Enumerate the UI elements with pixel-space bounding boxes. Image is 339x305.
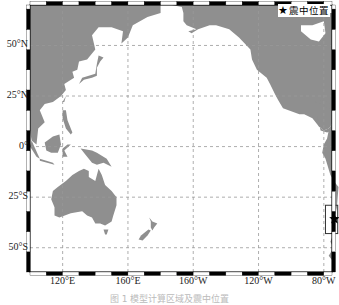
frame-tick-left bbox=[27, 70, 31, 90]
legend-label: 震中位置 bbox=[289, 4, 329, 17]
frame-tick-left bbox=[27, 50, 31, 70]
lon-tick-label: 120°E bbox=[50, 275, 75, 286]
frame-tick-right bbox=[332, 90, 336, 110]
frame-tick-right bbox=[332, 9, 336, 29]
star-icon: ★ bbox=[278, 4, 288, 17]
frame-tick-left bbox=[27, 5, 31, 9]
frame-tick-bottom bbox=[226, 272, 242, 276]
frame-tick-left bbox=[27, 211, 31, 231]
frame-tick-left bbox=[27, 151, 31, 171]
frame-tick-top bbox=[128, 2, 144, 6]
frame-tick-top bbox=[95, 2, 111, 6]
frame-tick-bottom bbox=[161, 272, 177, 276]
frame-tick-left bbox=[27, 171, 31, 191]
frame-tick-top bbox=[144, 2, 160, 6]
frame-tick-bottom bbox=[79, 272, 95, 276]
lon-tick-label: 160°W bbox=[179, 275, 207, 286]
frame-tick-top bbox=[210, 2, 226, 6]
frame-tick-right bbox=[332, 130, 336, 150]
frame-tick-right bbox=[332, 110, 336, 130]
frame-tick-left bbox=[27, 9, 31, 29]
legend: ★ 震中位置 bbox=[278, 4, 330, 17]
lat-tick-label: 50°S bbox=[8, 241, 28, 252]
lat-tick-label: 25°S bbox=[8, 190, 28, 201]
frame-tick-right bbox=[332, 151, 336, 171]
lat-tick-label: 0° bbox=[19, 140, 28, 151]
frame-tick-bottom bbox=[144, 272, 160, 276]
frame-tick-bottom bbox=[30, 272, 46, 276]
lat-tick-label: 50°N bbox=[7, 38, 28, 49]
frame-tick-right bbox=[332, 191, 336, 211]
figure-caption: 图 1 模型计算区域及震中位置 bbox=[0, 292, 339, 305]
frame-tick-right bbox=[332, 171, 336, 191]
lon-tick-label: 80°W bbox=[312, 275, 335, 286]
frame-tick-top bbox=[112, 2, 128, 6]
frame-tick-top bbox=[30, 2, 46, 6]
frame-tick-left bbox=[27, 110, 31, 130]
lon-tick-label: 160°E bbox=[115, 275, 140, 286]
lat-tick-label: 25°N bbox=[7, 89, 28, 100]
frame-tick-left bbox=[27, 252, 31, 272]
frame-tick-top bbox=[63, 2, 79, 6]
frame-tick-top bbox=[193, 2, 209, 6]
frame-tick-right bbox=[332, 50, 336, 70]
frame-tick-top bbox=[161, 2, 177, 6]
frame-tick-right bbox=[332, 252, 336, 272]
frame-tick-bottom bbox=[210, 272, 226, 276]
frame-tick-right bbox=[332, 29, 336, 49]
frame-tick-top bbox=[79, 2, 95, 6]
frame-tick-right bbox=[332, 70, 336, 90]
frame-tick-right bbox=[332, 211, 336, 231]
frame-tick-bottom bbox=[291, 272, 307, 276]
frame-tick-top bbox=[242, 2, 258, 6]
frame-tick-top bbox=[46, 2, 62, 6]
frame-tick-bottom bbox=[95, 272, 111, 276]
frame-tick-bottom bbox=[275, 272, 291, 276]
frame-tick-right bbox=[332, 232, 336, 252]
lon-tick-label: 120°W bbox=[244, 275, 272, 286]
frame-tick-top bbox=[177, 2, 193, 6]
frame-tick-top bbox=[226, 2, 242, 6]
frame-tick-right bbox=[332, 5, 336, 9]
frame-tick-top bbox=[259, 2, 275, 6]
